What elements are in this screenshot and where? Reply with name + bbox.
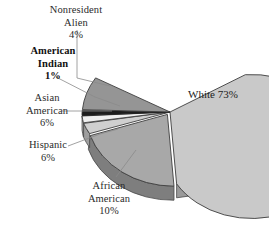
slice-nonresident-alien (82, 78, 170, 112)
label-line-2: Alien (32, 17, 120, 30)
label-line-2: American (66, 193, 152, 206)
label-line-1: Asian (8, 92, 86, 105)
label-percent: 4% (32, 29, 120, 42)
label-line-1: Nonresident (32, 4, 120, 17)
label-percent: 73% (218, 88, 238, 100)
label-line-1: Hispanic (8, 139, 88, 152)
label-line-1: African (66, 180, 152, 193)
slice-label-nonresident-alien: Nonresident Alien 4% (32, 4, 120, 42)
slice-label-african-american: African American 10% (66, 180, 152, 218)
slice-label-asian-american: Asian American 6% (8, 92, 86, 130)
label-percent: 10% (66, 205, 152, 218)
pie-chart-figure: Nonresident Alien 4% American Indian 1% … (0, 0, 269, 228)
slice-label-hispanic: Hispanic 6% (8, 139, 88, 164)
label-line-2: American (8, 105, 86, 118)
label-line-1: American (14, 45, 92, 58)
label-percent: 6% (8, 152, 88, 165)
slice-label-american-indian: American Indian 1% (14, 45, 92, 83)
slice-label-white: White 73% (186, 88, 240, 101)
label-percent: 1% (14, 70, 92, 83)
label-line-1: White (188, 88, 215, 100)
label-line-2: Indian (14, 58, 92, 71)
label-percent: 6% (8, 117, 86, 130)
